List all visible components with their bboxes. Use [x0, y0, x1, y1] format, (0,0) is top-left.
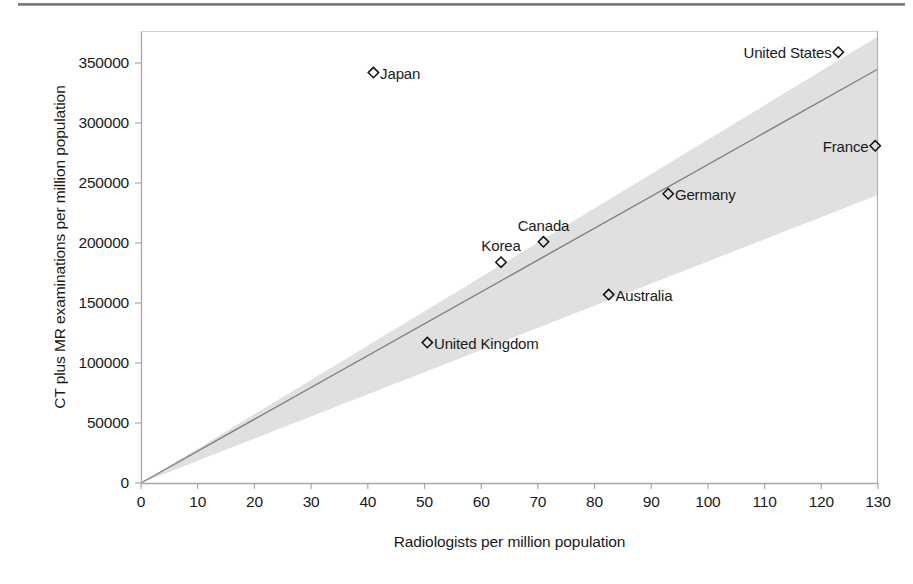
y-tick-label: 250000 [10, 174, 129, 192]
x-tick-label: 20 [246, 493, 263, 511]
y-tick-label: 50000 [10, 414, 129, 432]
x-tick-label: 60 [473, 493, 490, 511]
x-tick-label: 30 [303, 493, 320, 511]
x-tick-label: 110 [753, 493, 777, 511]
y-tick-label: 300000 [10, 114, 129, 132]
data-point-marker [833, 47, 843, 57]
data-point-label: United Kingdom [434, 334, 539, 351]
data-point-marker [368, 67, 378, 77]
confidence-band [141, 37, 878, 483]
scatter-chart-figure: 0500001000001500002000002500003000003500… [0, 0, 913, 584]
x-tick-label: 80 [586, 493, 603, 511]
x-tick-label: 40 [359, 493, 376, 511]
data-point-label: Canada [518, 217, 570, 234]
x-tick-label: 10 [189, 493, 206, 511]
y-tick-label: 0 [10, 474, 129, 492]
y-tick-label: 150000 [10, 294, 129, 312]
data-point-label: Australia [615, 286, 672, 303]
y-axis-title: CT plus MR examinations per million popu… [51, 17, 69, 477]
data-point-label: United States [743, 44, 831, 61]
data-point-label: France [823, 137, 869, 154]
x-tick-label: 130 [865, 493, 890, 511]
x-tick-label: 120 [809, 493, 834, 511]
x-tick-label: 90 [643, 493, 660, 511]
data-point-label: Korea [481, 237, 520, 254]
x-tick-label: 70 [529, 493, 546, 511]
y-tick-label: 350000 [10, 54, 129, 72]
x-axis-title: Radiologists per million population [141, 533, 878, 551]
data-point-label: Germany [675, 185, 736, 202]
x-tick-label: 100 [695, 493, 720, 511]
y-tick-label: 200000 [10, 234, 129, 252]
y-axis-tick-marks [135, 63, 141, 483]
x-tick-label: 50 [416, 493, 433, 511]
regression-line [141, 69, 878, 483]
y-tick-label: 100000 [10, 354, 129, 372]
x-tick-label: 0 [137, 493, 145, 511]
data-point-label: Japan [380, 64, 420, 81]
